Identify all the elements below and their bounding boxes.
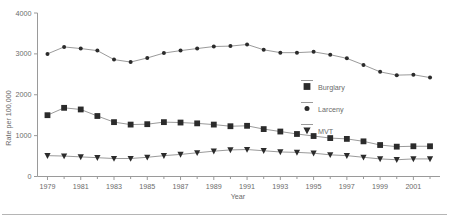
marker-circle [278, 51, 282, 55]
marker-square [194, 120, 200, 126]
x-tick-label: 2001 [405, 182, 421, 191]
marker-square [244, 123, 250, 129]
marker-circle [395, 73, 399, 77]
marker-circle [328, 53, 332, 57]
marker-circle [179, 49, 183, 53]
marker-square [228, 123, 234, 129]
series-line [47, 44, 430, 77]
x-tick-label: 1993 [272, 182, 288, 191]
marker-square [128, 122, 134, 128]
legend-label: Larceny [318, 105, 344, 114]
x-tick-label: 1985 [139, 182, 155, 191]
marker-square [327, 135, 333, 141]
y-axis-title: Rate per 100,000 [4, 90, 13, 146]
marker-circle [262, 48, 266, 52]
x-tick-label: 1995 [306, 182, 322, 191]
legend-item-mvt: MVT [301, 125, 334, 136]
y-tick-label: 2000 [16, 90, 32, 99]
marker-triangle [394, 157, 400, 163]
marker-circle [45, 52, 49, 56]
marker-circle [212, 45, 216, 49]
marker-square [94, 113, 100, 119]
marker-square [178, 120, 184, 126]
x-tick-label: 1991 [239, 182, 255, 191]
marker-circle [79, 47, 83, 51]
series-burglary [45, 105, 433, 150]
marker-square [344, 136, 350, 142]
x-tick-label: 1989 [206, 182, 222, 191]
marker-circle [361, 63, 365, 67]
marker-square [410, 143, 416, 149]
marker-circle [162, 51, 166, 55]
marker-square [311, 133, 317, 139]
series-line [47, 108, 430, 147]
x-tick-label: 1997 [339, 182, 355, 191]
marker-circle [95, 49, 99, 53]
x-tick-label: 1999 [372, 182, 388, 191]
y-axis-ticks: 01000200030004000 [16, 9, 38, 182]
marker-circle [428, 76, 432, 80]
x-tick-label: 1979 [39, 182, 55, 191]
marker-square [277, 129, 283, 135]
marker-square [377, 142, 383, 148]
series-larceny [45, 42, 432, 79]
x-tick-label: 1981 [73, 182, 89, 191]
marker-square [294, 131, 300, 137]
data-series-group [44, 42, 433, 163]
x-tick-label: 1987 [173, 182, 189, 191]
marker-square [111, 119, 117, 125]
marker-circle [228, 44, 232, 48]
legend-label: MVT [318, 127, 334, 136]
marker-circle [378, 70, 382, 74]
marker-square [161, 119, 167, 125]
marker-circle [145, 56, 149, 60]
chart-canvas: Rate per 100,000 01000200030004000 19791… [0, 0, 449, 220]
y-tick-label: 4000 [16, 9, 32, 18]
marker-square [394, 144, 400, 150]
marker-square [211, 122, 217, 128]
marker-square [78, 107, 84, 113]
legend-item-larceny: Larceny [301, 103, 344, 114]
marker-circle [295, 51, 299, 55]
y-tick-label: 0 [28, 172, 32, 181]
marker-circle [411, 73, 415, 77]
marker-square [304, 83, 311, 90]
marker-square [427, 143, 433, 149]
marker-circle [345, 56, 349, 60]
crime-rate-line-chart: Rate per 100,000 01000200030004000 19791… [0, 0, 449, 220]
marker-square [261, 126, 267, 132]
marker-square [144, 121, 150, 127]
y-tick-label: 3000 [16, 49, 32, 58]
marker-circle [305, 106, 310, 111]
marker-circle [112, 58, 116, 62]
marker-circle [62, 45, 66, 49]
marker-triangle [303, 127, 310, 134]
marker-square [361, 138, 367, 144]
x-axis-title: Year [231, 192, 246, 201]
marker-circle [195, 47, 199, 51]
marker-square [45, 112, 51, 118]
marker-circle [129, 60, 133, 64]
marker-square [61, 105, 67, 111]
x-tick-label: 1983 [106, 182, 122, 191]
marker-circle [245, 42, 249, 46]
chart-legend: BurglaryLarcenyMVT [301, 81, 345, 136]
series-line [47, 150, 430, 160]
y-tick-label: 1000 [16, 131, 32, 140]
legend-label: Burglary [318, 83, 345, 92]
marker-circle [312, 50, 316, 54]
series-mvt [44, 147, 433, 163]
legend-item-burglary: Burglary [301, 81, 345, 92]
